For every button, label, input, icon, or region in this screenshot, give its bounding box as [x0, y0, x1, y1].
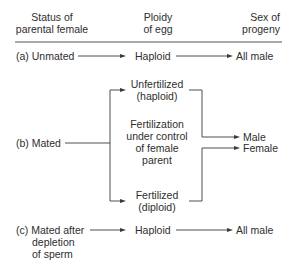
- row-c-progeny: All male: [236, 224, 273, 236]
- label-text: (c) Mated after: [16, 224, 84, 236]
- label-text: parent: [126, 154, 187, 166]
- arrowhead-icon: [234, 146, 240, 150]
- arrow-fertilized-to-female: [189, 148, 235, 201]
- arrowhead-icon: [227, 54, 233, 58]
- label-text: of sperm: [16, 248, 84, 260]
- row-a-ploidy: Haploid: [135, 50, 171, 62]
- label-text: Unfertilized: [131, 78, 184, 90]
- label-text: (haploid): [131, 90, 184, 102]
- row-b-unfertilized: Unfertilized (haploid): [131, 78, 184, 102]
- arrow-unfertilized-to-male: [189, 90, 235, 137]
- row-b-fertilized: Fertilized (diploid): [136, 189, 179, 213]
- label-text: Fertilized: [136, 189, 179, 201]
- arrowhead-icon: [120, 88, 126, 92]
- row-c-status: (c) Mated after depletion of sperm: [16, 224, 84, 260]
- header-text: parental female: [16, 23, 88, 35]
- header-text: Ploidy: [143, 11, 172, 23]
- header-text: Sex of: [242, 11, 280, 23]
- header-text: Status of: [16, 11, 88, 23]
- row-a-status: (a) Unmated: [16, 50, 74, 62]
- row-a-progeny: All male: [236, 50, 273, 62]
- row-c-ploidy: Haploid: [135, 224, 171, 236]
- header-sex-of-progeny: Sex of progeny: [242, 11, 280, 35]
- header-status-of-parental-female: Status of parental female: [16, 11, 88, 35]
- header-text: of egg: [143, 23, 172, 35]
- arrowhead-icon: [120, 54, 126, 58]
- header-text: progeny: [242, 23, 280, 35]
- label-text: Fertilization: [126, 118, 187, 130]
- arrowhead-icon: [227, 228, 233, 232]
- row-b-control-note: Fertilization under control of female pa…: [126, 118, 187, 166]
- label-text: (diploid): [136, 201, 179, 213]
- label-text: under control: [126, 130, 187, 142]
- row-b-status: (b) Mated: [16, 137, 61, 149]
- header-ploidy-of-egg: Ploidy of egg: [143, 11, 172, 35]
- row-b-progeny-female: Female: [243, 142, 278, 154]
- arrowhead-icon: [120, 228, 126, 232]
- diagram-ploidy-sex-determination: Status of parental female Ploidy of egg …: [0, 0, 294, 272]
- arrowhead-icon: [120, 199, 126, 203]
- label-text: depletion: [16, 236, 84, 248]
- arrowhead-icon: [234, 135, 240, 139]
- label-text: of female: [126, 142, 187, 154]
